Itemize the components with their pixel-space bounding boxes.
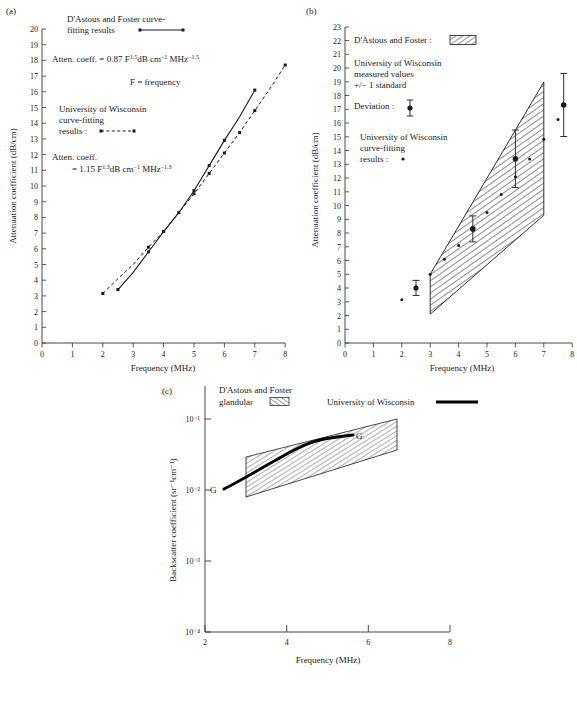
panel-b-ytick-4: 4 bbox=[337, 284, 341, 293]
panel-b: (b) 0 1 2 3 4 5 6 7 8 9 10 11 12 13 14 1… bbox=[290, 0, 577, 380]
panel-c-legend-dastous-line1: D'Astous and Foster bbox=[219, 385, 292, 395]
panel-a-xtick-5: 5 bbox=[192, 350, 196, 359]
panel-a-equation-1: Atten. coeff. = 0.87 F1.5dB cm−1 MHz−1.5 bbox=[52, 54, 199, 65]
panel-b-legend-fit-line2: curve-fitting bbox=[360, 143, 405, 153]
panel-b-y-ticks: 0 1 2 3 4 5 6 7 8 9 10 11 12 13 14 15 16… bbox=[333, 23, 349, 348]
panel-b-ytick-16: 16 bbox=[333, 119, 341, 128]
panel-b-xtick-1: 1 bbox=[371, 350, 375, 359]
panel-a-uw-markers bbox=[101, 64, 286, 296]
panel-b-legend-errorbar-sample bbox=[407, 100, 413, 116]
eq2-mid: dB cm bbox=[110, 164, 134, 174]
eq2-sup3: −1.3 bbox=[161, 164, 172, 170]
panel-b-xtick-2: 2 bbox=[400, 350, 404, 359]
panel-c-xtick-3: 8 bbox=[448, 638, 452, 647]
panel-a-ytick-8: 8 bbox=[34, 213, 38, 222]
panel-a-ytick-6: 6 bbox=[34, 245, 38, 254]
panel-b-ytick-18: 18 bbox=[333, 92, 341, 101]
panel-b-tag: (b) bbox=[306, 6, 317, 16]
panel-a-ytick-10: 10 bbox=[30, 182, 38, 191]
panel-c-xtick-2: 6 bbox=[366, 638, 370, 647]
panel-b-ytick-17: 17 bbox=[333, 105, 341, 114]
panel-a: (a) 0 1 2 3 4 5 6 7 8 9 10 11 12 13 14 1… bbox=[0, 0, 290, 380]
panel-b-ytick-14: 14 bbox=[333, 147, 341, 156]
panel-a-legend-solid-sample bbox=[139, 29, 185, 32]
panel-a-ytick-17: 17 bbox=[30, 72, 38, 81]
panel-b-ytick-22: 22 bbox=[333, 37, 341, 46]
panel-b-ytick-12: 12 bbox=[333, 174, 341, 183]
panel-a-xtick-7: 7 bbox=[253, 350, 257, 359]
panel-a-ytick-2: 2 bbox=[34, 308, 38, 317]
panel-c-ylabel: Backscatter coefficient (sr⁻¹cm⁻¹) bbox=[168, 458, 178, 582]
panel-b-ytick-3: 3 bbox=[337, 298, 341, 307]
panel-c-ytick-1: 10⁻² bbox=[186, 486, 201, 495]
panel-c-xtick-1: 4 bbox=[285, 638, 289, 647]
panel-a-equation-2-line1: Atten. coeff. bbox=[52, 152, 97, 162]
panel-b-ytick-13: 13 bbox=[333, 160, 341, 169]
panel-b-svg: (b) 0 1 2 3 4 5 6 7 8 9 10 11 12 13 14 1… bbox=[290, 0, 577, 380]
panel-c-ytick-2: 10⁻³ bbox=[186, 557, 201, 566]
panel-a-ytick-13: 13 bbox=[30, 135, 38, 144]
panel-a-y-ticks: 0 1 2 3 4 5 6 7 8 9 10 11 12 13 14 15 16… bbox=[30, 25, 46, 348]
panel-a-uw-line bbox=[103, 65, 285, 294]
panel-a-ytick-11: 11 bbox=[30, 166, 38, 175]
panel-b-xtick-4: 4 bbox=[457, 350, 461, 359]
panel-b-xtick-0: 0 bbox=[343, 350, 347, 359]
panel-a-xtick-1: 1 bbox=[70, 350, 74, 359]
panel-a-xtick-0: 0 bbox=[40, 350, 44, 359]
panel-c-dastous-band bbox=[246, 419, 397, 497]
panel-b-ytick-8: 8 bbox=[337, 229, 341, 238]
svg-text:Atten. coeff. = 0.87 F1.5dB cm: Atten. coeff. = 0.87 F1.5dB cm−1 MHz−1.5 bbox=[52, 54, 199, 65]
panel-b-ytick-9: 9 bbox=[337, 215, 341, 224]
panel-c: (c) 10⁻¹ 10⁻² 10⁻³ 10⁻⁴ 2 4 6 8 Frequenc… bbox=[100, 380, 500, 708]
panel-c-legend-hatch-swatch bbox=[270, 398, 289, 406]
panel-b-ytick-19: 19 bbox=[333, 78, 341, 87]
panel-b-legend-dastous: D'Astous and Foster : bbox=[354, 35, 432, 45]
panel-a-legend-uw-line3: results : bbox=[59, 126, 87, 136]
panel-b-legend-meas-line1: University of Wisconsin bbox=[354, 58, 442, 68]
panel-a-ytick-15: 15 bbox=[30, 104, 38, 113]
panel-b-ytick-20: 20 bbox=[333, 64, 341, 73]
panel-c-y-ticks: 10⁻¹ 10⁻² 10⁻³ 10⁻⁴ bbox=[185, 415, 211, 637]
panel-c-xtick-0: 2 bbox=[203, 638, 207, 647]
panel-a-ytick-7: 7 bbox=[34, 229, 38, 238]
panel-a-svg: (a) 0 1 2 3 4 5 6 7 8 9 10 11 12 13 14 1… bbox=[0, 0, 290, 380]
panel-b-dastous-band bbox=[430, 82, 544, 314]
panel-c-ytick-3: 10⁻⁴ bbox=[185, 628, 200, 637]
panel-c-svg: (c) 10⁻¹ 10⁻² 10⁻³ 10⁻⁴ 2 4 6 8 Frequenc… bbox=[100, 380, 500, 708]
panel-b-ytick-15: 15 bbox=[333, 133, 341, 142]
eq2-pre: = 1.15 F bbox=[72, 164, 102, 174]
panel-b-ytick-23: 23 bbox=[333, 23, 341, 32]
panel-a-dastous-markers bbox=[116, 89, 256, 291]
panel-b-ytick-7: 7 bbox=[337, 243, 341, 252]
panel-a-ytick-0: 0 bbox=[34, 339, 38, 348]
panel-a-xtick-4: 4 bbox=[162, 350, 166, 359]
panel-a-legend-dastous-line2: fitting results bbox=[67, 25, 115, 35]
panel-a-ytick-20: 20 bbox=[30, 25, 38, 34]
panel-b-ytick-10: 10 bbox=[333, 202, 341, 211]
panel-c-point-label-left: G bbox=[210, 485, 217, 495]
panel-b-xtick-5: 5 bbox=[485, 350, 489, 359]
panel-b-xtick-3: 3 bbox=[428, 350, 432, 359]
panel-c-legend-uw: University of Wisconsin bbox=[327, 397, 415, 407]
panel-b-ytick-0: 0 bbox=[337, 339, 341, 348]
panel-b-legend-dot-sample bbox=[401, 157, 404, 160]
panel-a-tag: (a) bbox=[6, 6, 16, 16]
panel-a-xtick-6: 6 bbox=[222, 350, 226, 359]
panel-b-x-ticks: 0 1 2 3 4 5 6 7 8 bbox=[343, 343, 574, 359]
eq2-sup1: 1.3 bbox=[102, 164, 110, 170]
panel-b-ytick-5: 5 bbox=[337, 270, 341, 279]
eq1-mid2: MHz bbox=[167, 54, 188, 64]
panel-b-ytick-2: 2 bbox=[337, 312, 341, 321]
panel-c-tag: (c) bbox=[162, 386, 172, 396]
panel-a-ytick-19: 19 bbox=[30, 41, 38, 50]
panel-c-xlabel: Frequency (MHz) bbox=[296, 655, 361, 665]
panel-c-legend-dastous-line2: glandular bbox=[219, 397, 253, 407]
panel-a-x-ticks: 0 1 2 3 4 5 6 7 8 bbox=[40, 343, 287, 359]
eq1-pre: Atten. coeff. = 0.87 F bbox=[52, 54, 130, 64]
panel-c-point-label-right: G bbox=[356, 431, 363, 441]
panel-b-legend-meas-line3: +/− 1 standard bbox=[354, 80, 407, 90]
panel-a-ytick-3: 3 bbox=[34, 292, 38, 301]
panel-a-legend-uw-line1: University of Wisconsin bbox=[59, 104, 147, 114]
panel-a-ytick-9: 9 bbox=[34, 198, 38, 207]
panel-a-ytick-5: 5 bbox=[34, 261, 38, 270]
